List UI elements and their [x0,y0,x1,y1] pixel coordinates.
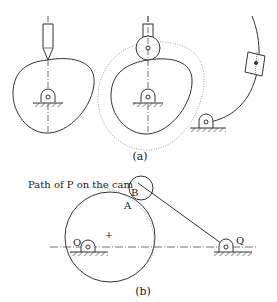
link-bq [138,183,225,246]
arc-slider-mechanism [190,16,265,132]
knife-edge-follower [43,24,53,60]
panel-a: (a) [13,16,265,163]
panel-b: Path of P on the cam B A O Q + (b) [28,176,258,298]
pivot-support-o [81,240,95,252]
knife-edge-follower-cam [13,16,94,133]
pivot-support-3 [199,114,213,128]
label-b: B [131,187,138,198]
cam-center-mark: + [105,229,113,240]
label-o: O [73,237,81,248]
caption-a: (a) [132,150,147,163]
caption-b: (b) [135,285,151,298]
path-of-p-label: Path of P on the cam [28,179,133,190]
cam-mechanisms-diagram: (a) Path of P on the cam B [0,0,277,302]
path-of-p [87,187,154,262]
label-a: A [123,200,132,211]
label-q: Q [236,235,244,246]
roller-follower-cam [98,16,204,150]
